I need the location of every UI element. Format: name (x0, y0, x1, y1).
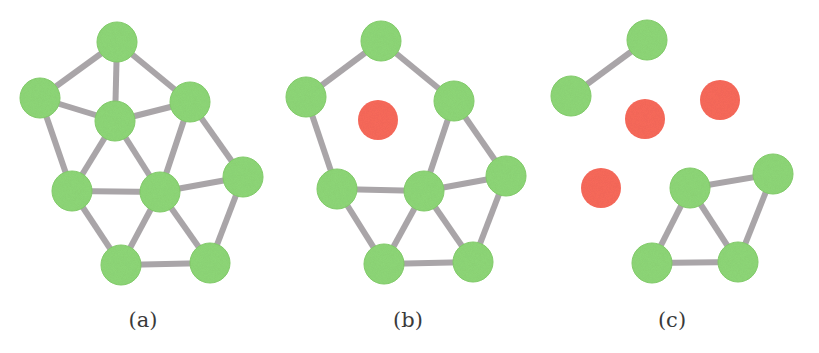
active-node (486, 156, 526, 196)
active-node (718, 242, 758, 282)
active-node (97, 22, 137, 62)
active-node (670, 168, 710, 208)
active-node (20, 78, 60, 118)
active-node (551, 76, 591, 116)
active-node (632, 243, 672, 283)
removed-node (581, 168, 621, 208)
active-node (140, 172, 180, 212)
panel-b-graph (286, 21, 526, 284)
active-node (286, 77, 326, 117)
active-node (223, 157, 263, 197)
active-node (627, 20, 667, 60)
active-node (170, 82, 210, 122)
active-node (753, 154, 793, 194)
active-node (361, 21, 401, 61)
active-node (101, 245, 141, 285)
removed-node (700, 80, 740, 120)
removed-node (625, 99, 665, 139)
active-node (364, 244, 404, 284)
active-node (404, 171, 444, 211)
active-node (317, 169, 357, 209)
panel-c-graph (551, 20, 793, 283)
active-node (434, 81, 474, 121)
active-node (95, 101, 135, 141)
active-node (190, 243, 230, 283)
panel-label-a: (a) (113, 306, 173, 334)
panel-a-graph (20, 22, 263, 285)
network-figure: (a) (b) (c) (0, 0, 819, 353)
removed-node (358, 100, 398, 140)
panel-label-b: (b) (378, 306, 438, 334)
graph-canvas (0, 0, 819, 353)
active-node (453, 242, 493, 282)
panel-label-c: (c) (642, 306, 702, 334)
active-node (52, 171, 92, 211)
